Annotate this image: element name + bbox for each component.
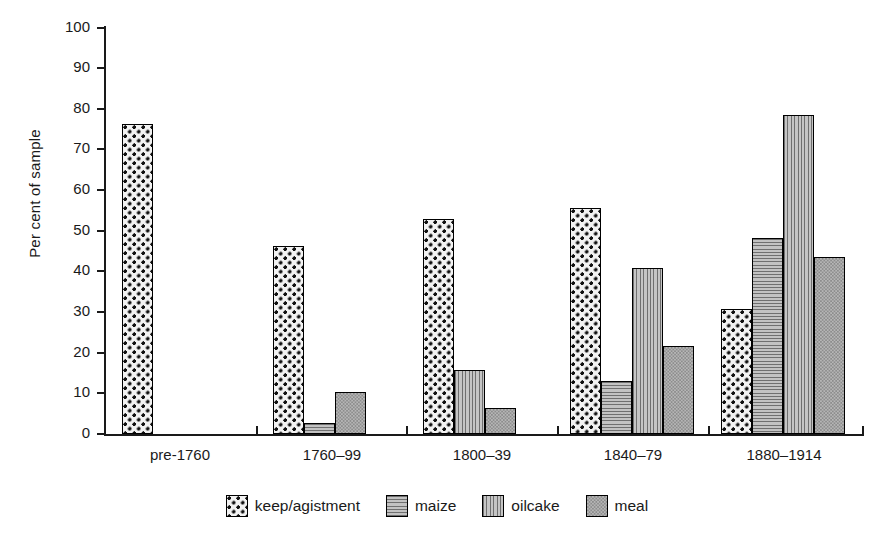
bar-keep-agistment-2 bbox=[423, 219, 454, 434]
legend-swatch-meal-icon bbox=[586, 495, 608, 517]
bar-keep-agistment-1 bbox=[273, 246, 304, 434]
legend-label-maize: maize bbox=[415, 497, 456, 515]
legend-swatch-keep-icon bbox=[226, 495, 248, 517]
x-tick-label-1: 1760–99 bbox=[252, 446, 412, 463]
chart-figure: Per cent of sample 010203040506070809010… bbox=[0, 0, 874, 547]
bar-meal-2 bbox=[485, 408, 516, 434]
bars-layer bbox=[0, 0, 874, 436]
legend-label-oilcake: oilcake bbox=[511, 497, 559, 515]
bar-meal-4 bbox=[814, 257, 845, 434]
legend-label-keep: keep/agistment bbox=[255, 497, 360, 515]
legend-label-meal: meal bbox=[615, 497, 649, 515]
x-tick-label-3: 1840–79 bbox=[553, 446, 713, 463]
legend-item-maize: maize bbox=[386, 495, 456, 517]
bar-meal-1 bbox=[335, 392, 366, 434]
bar-oilcake-4 bbox=[783, 115, 814, 434]
bar-maize-4 bbox=[752, 238, 783, 434]
legend-item-keep: keep/agistment bbox=[226, 495, 360, 517]
x-tick-label-2: 1800–39 bbox=[402, 446, 562, 463]
bar-maize-3 bbox=[601, 381, 632, 434]
chart-legend: keep/agistmentmaizeoilcakemeal bbox=[0, 495, 874, 517]
legend-swatch-oilcake-icon bbox=[482, 495, 504, 517]
legend-item-meal: meal bbox=[586, 495, 649, 517]
x-tick-label-0: pre-1760 bbox=[100, 446, 260, 463]
bar-oilcake-2 bbox=[454, 370, 485, 434]
legend-item-oilcake: oilcake bbox=[482, 495, 559, 517]
legend-swatch-maize-icon bbox=[386, 495, 408, 517]
bar-oilcake-3 bbox=[632, 268, 663, 434]
bar-keep-agistment-4 bbox=[721, 309, 752, 434]
bar-keep-agistment-0 bbox=[122, 124, 153, 434]
bar-maize-1 bbox=[304, 423, 335, 434]
x-tick-label-4: 1880–1914 bbox=[704, 446, 864, 463]
bar-meal-3 bbox=[663, 346, 694, 434]
bar-keep-agistment-3 bbox=[570, 208, 601, 434]
